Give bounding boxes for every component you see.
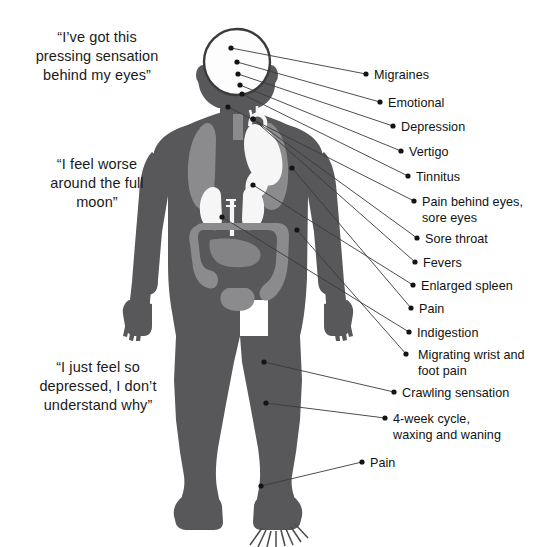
label-bullet-dot — [382, 415, 387, 420]
label-bullet-dot — [414, 235, 419, 240]
label-sore-throat: Sore throat — [425, 232, 488, 248]
label-vertigo: Vertigo — [409, 145, 449, 161]
label-bullet-dot — [403, 351, 408, 356]
label-bullet-dot — [412, 259, 417, 264]
label-bullet-dot — [411, 198, 416, 203]
right-leg — [240, 336, 302, 514]
body-anchor-dot — [294, 227, 299, 232]
label-spleen: Enlarged spleen — [421, 279, 513, 295]
quote-pressing-behind-eyes: “I’ve got this pressing sensation behind… — [14, 28, 180, 85]
body-anchor-dot — [228, 45, 233, 50]
label-fevers: Fevers — [423, 256, 462, 272]
label-depression: Depression — [401, 120, 465, 136]
body-anchor-dot — [263, 400, 268, 405]
body-anchor-dot — [289, 165, 294, 170]
label-emotional: Emotional — [388, 96, 444, 112]
right-hand — [324, 300, 353, 341]
label-migraines: Migraines — [374, 68, 429, 84]
label-pain-2: Pain — [370, 456, 395, 472]
label-bullet-dot — [390, 123, 395, 128]
label-bullet-dot — [391, 389, 396, 394]
body-anchor-dot — [237, 82, 242, 87]
body-anchor-dot — [219, 214, 224, 219]
label-indigestion: Indigestion — [417, 326, 478, 342]
body-anchor-dot — [258, 483, 263, 488]
body-anchor-dot — [235, 71, 240, 76]
label-pain-1: Pain — [419, 302, 444, 318]
label-crawling: Crawling sensation — [402, 386, 509, 402]
label-4week: 4-week cycle, waxing and waning — [393, 412, 501, 444]
label-bullet-dot — [410, 282, 415, 287]
label-bullet-dot — [406, 329, 411, 334]
label-bullet-dot — [377, 99, 382, 104]
label-bullet-dot — [359, 459, 364, 464]
body-anchor-dot — [225, 104, 230, 109]
right-foot — [253, 497, 302, 530]
label-bullet-dot — [398, 148, 403, 153]
diagram-canvas: “I’ve got this pressing sensation behind… — [0, 0, 549, 547]
label-pain-eyes: Pain behind eyes, sore eyes — [422, 195, 523, 227]
body-anchor-dot — [250, 116, 255, 121]
quote-worse-full-moon: “I feel worse around the full moon” — [14, 155, 180, 212]
label-bullet-dot — [363, 71, 368, 76]
leader-line — [292, 168, 411, 308]
left-hand — [123, 300, 152, 341]
quote-feel-depressed: “I just feel so depressed, I don’t under… — [12, 358, 184, 415]
label-migrating: Migrating wrist and foot pain — [418, 348, 525, 380]
left-foot — [174, 497, 223, 530]
body-anchor-dot — [250, 182, 255, 187]
label-tinnitus: Tinnitus — [416, 170, 460, 186]
body-anchor-dot — [234, 59, 239, 64]
body-anchor-dot — [239, 91, 244, 96]
trachea — [233, 114, 243, 140]
bladder — [220, 288, 254, 311]
body-anchor-dot — [261, 359, 266, 364]
label-bullet-dot — [408, 305, 413, 310]
label-bullet-dot — [405, 173, 410, 178]
